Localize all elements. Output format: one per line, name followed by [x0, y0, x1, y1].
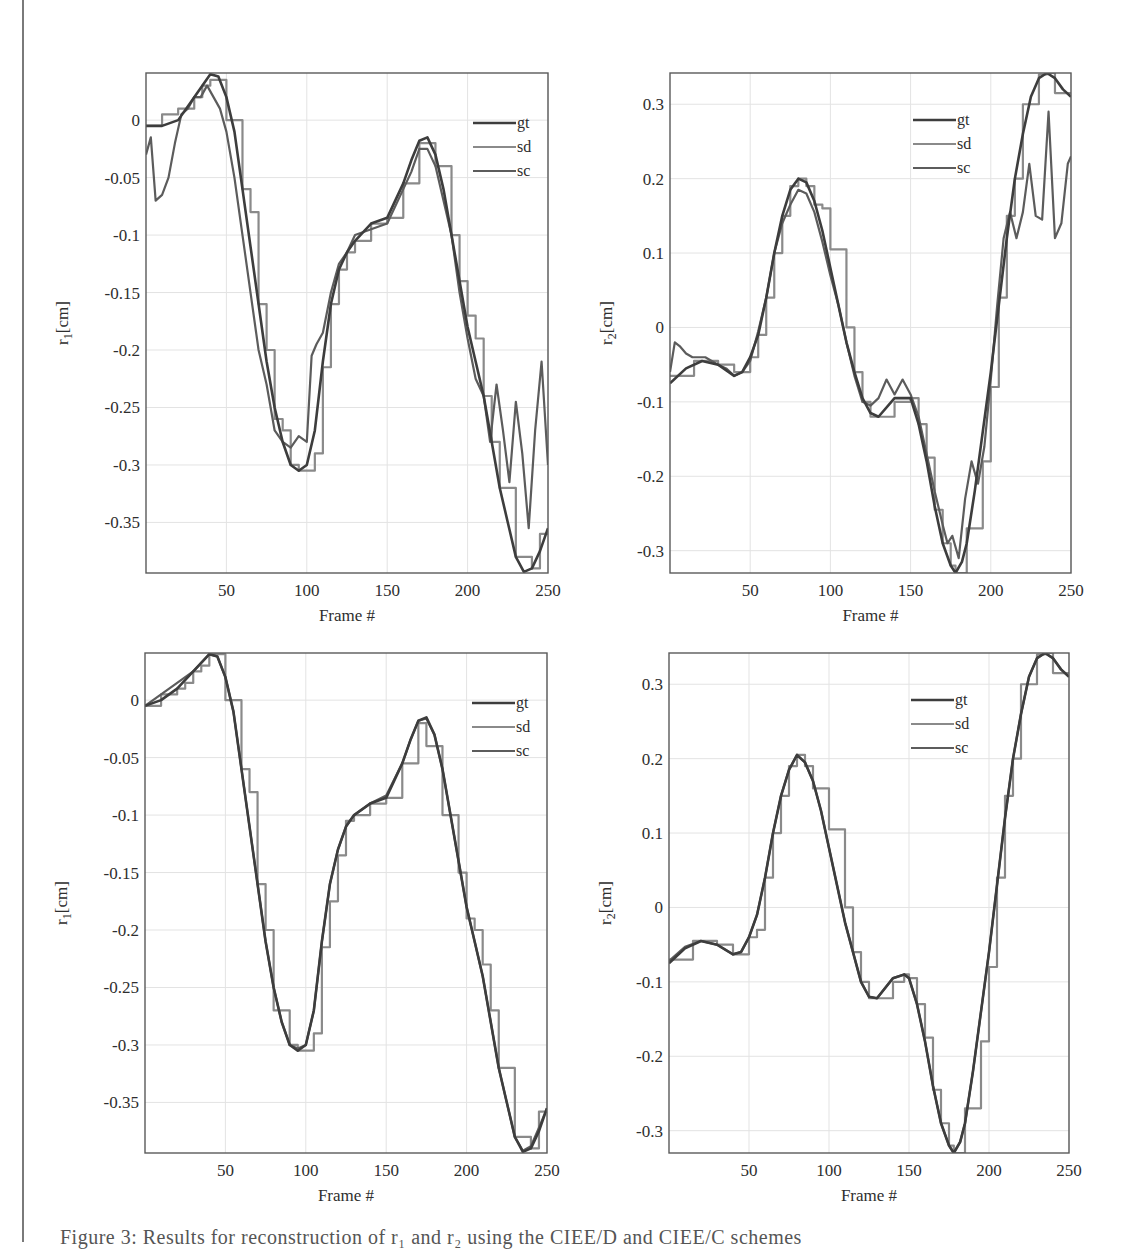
- legend-label-gt: gt: [516, 694, 529, 712]
- y-tick-label: -0.05: [105, 169, 140, 188]
- x-axis-label: Frame #: [318, 1186, 375, 1205]
- y-tick-label: -0.2: [637, 467, 664, 486]
- x-tick-label: 250: [534, 1161, 560, 1180]
- y-tick-label: -0.2: [112, 921, 139, 940]
- y-tick-label: -0.05: [104, 749, 139, 768]
- legend-label-gt: gt: [957, 111, 970, 129]
- y-tick-label: -0.35: [105, 513, 140, 532]
- legend-label-sc: sc: [516, 742, 529, 759]
- x-tick-label: 250: [1056, 1161, 1082, 1180]
- x-tick-label: 50: [218, 581, 235, 600]
- x-tick-label: 200: [454, 1161, 480, 1180]
- y-tick-label: -0.3: [112, 1036, 139, 1055]
- plot-area: [670, 73, 1071, 573]
- x-tick-label: 250: [1058, 581, 1084, 600]
- y-tick-label: -0.25: [104, 978, 139, 997]
- y-tick-label: -0.1: [113, 226, 140, 245]
- y-tick-label: 0.2: [642, 750, 663, 769]
- x-tick-label: 100: [294, 581, 320, 600]
- x-tick-label: 100: [818, 581, 844, 600]
- y-axis-label: r2[cm]: [596, 881, 618, 925]
- y-tick-label: 0.1: [642, 824, 663, 843]
- x-tick-label: 200: [976, 1161, 1002, 1180]
- x-axis-label: Frame #: [841, 1186, 898, 1205]
- x-tick-label: 150: [374, 581, 400, 600]
- x-tick-label: 200: [978, 581, 1004, 600]
- y-tick-label: -0.15: [105, 284, 140, 303]
- y-tick-label: -0.3: [637, 542, 664, 561]
- x-tick-label: 100: [293, 1161, 319, 1180]
- y-tick-label: 0.1: [643, 244, 664, 263]
- chart-top-right: 0.30.20.10-0.1-0.2-0.350100150200250Fram…: [597, 73, 1084, 625]
- y-tick-label: 0: [132, 111, 141, 130]
- x-axis-label: Frame #: [842, 606, 899, 625]
- y-tick-label: 0.2: [643, 170, 664, 189]
- y-tick-label: 0: [656, 318, 665, 337]
- figure-caption: Figure 3: Results for reconstruction of …: [60, 1226, 802, 1249]
- legend-label-sc: sc: [517, 162, 530, 179]
- chart-bottom-right: 0.30.20.10-0.1-0.2-0.350100150200250Fram…: [596, 653, 1082, 1205]
- legend-label-sc: sc: [955, 739, 968, 756]
- y-tick-label: -0.3: [636, 1122, 663, 1141]
- legend-label-sd: sd: [517, 138, 531, 155]
- y-axis-label: r2[cm]: [597, 301, 619, 345]
- x-axis-label: Frame #: [319, 606, 376, 625]
- y-tick-label: -0.1: [112, 806, 139, 825]
- x-tick-label: 250: [535, 581, 561, 600]
- y-tick-label: 0.3: [643, 95, 664, 114]
- y-tick-label: -0.3: [113, 456, 140, 475]
- chart-bottom-left: 0-0.05-0.1-0.15-0.2-0.25-0.3-0.355010015…: [52, 653, 560, 1205]
- y-tick-label: -0.2: [636, 1047, 663, 1066]
- x-tick-label: 150: [896, 1161, 922, 1180]
- y-tick-label: 0: [131, 691, 140, 710]
- x-tick-label: 50: [742, 581, 759, 600]
- y-axis-label: r1[cm]: [53, 301, 75, 345]
- y-tick-label: -0.2: [113, 341, 140, 360]
- y-axis-label: r1[cm]: [52, 881, 74, 925]
- plot-area: [669, 653, 1069, 1153]
- y-tick-label: -0.1: [636, 973, 663, 992]
- y-tick-label: -0.15: [104, 864, 139, 883]
- y-tick-label: -0.1: [637, 393, 664, 412]
- legend-label-sd: sd: [516, 718, 530, 735]
- legend-label-gt: gt: [517, 114, 530, 132]
- chart-top-left: 0-0.05-0.1-0.15-0.2-0.25-0.3-0.355010015…: [53, 73, 561, 625]
- legend-label-sd: sd: [955, 715, 969, 732]
- x-tick-label: 200: [455, 581, 481, 600]
- y-tick-label: 0: [655, 898, 664, 917]
- x-tick-label: 50: [741, 1161, 758, 1180]
- legend-label-gt: gt: [955, 691, 968, 709]
- y-tick-label: -0.25: [105, 398, 140, 417]
- x-tick-label: 150: [898, 581, 924, 600]
- y-tick-label: 0.3: [642, 675, 663, 694]
- x-tick-label: 100: [816, 1161, 842, 1180]
- x-tick-label: 50: [217, 1161, 234, 1180]
- y-tick-label: -0.35: [104, 1093, 139, 1112]
- legend-label-sd: sd: [957, 135, 971, 152]
- legend-label-sc: sc: [957, 159, 970, 176]
- x-tick-label: 150: [373, 1161, 399, 1180]
